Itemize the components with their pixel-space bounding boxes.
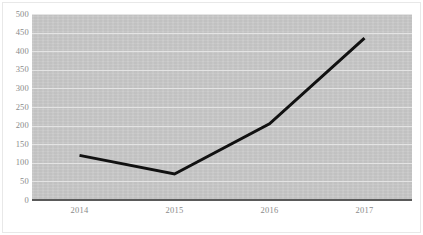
y-tick-label: 400	[3, 47, 29, 56]
x-tick-label: 2014	[71, 205, 89, 215]
x-tick-label: 2016	[261, 205, 279, 215]
y-tick-label: 300	[3, 84, 29, 93]
y-tick-label: 250	[3, 103, 29, 112]
series-line	[80, 38, 365, 174]
y-tick-label: 150	[3, 140, 29, 149]
y-tick-label: 0	[3, 196, 29, 205]
x-tick-label: 2017	[356, 205, 374, 215]
y-tick-label: 100	[3, 158, 29, 167]
y-tick-label: 450	[3, 28, 29, 37]
x-axis: 2014 2015 2016 2017	[32, 205, 412, 221]
y-tick-label: 500	[3, 10, 29, 19]
y-tick-label: 50	[3, 177, 29, 186]
line-chart: 500 450 400 350 300 250 200 150 100 50 0…	[0, 0, 423, 235]
x-tick-label: 2015	[166, 205, 184, 215]
y-axis: 500 450 400 350 300 250 200 150 100 50 0	[0, 0, 29, 235]
y-tick-label: 200	[3, 121, 29, 130]
data-series-layer	[32, 14, 412, 200]
y-tick-label: 350	[3, 65, 29, 74]
